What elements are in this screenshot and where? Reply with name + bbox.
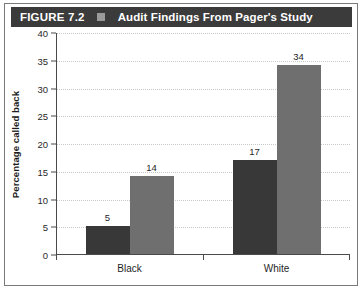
bar <box>233 160 277 254</box>
bars-layer: 5141734 <box>56 33 350 255</box>
y-axis-tick-label: 35 <box>37 55 48 66</box>
figure-container: FIGURE 7.2 Audit Findings From Pager's S… <box>0 0 363 292</box>
bar <box>277 65 321 254</box>
bar-value-label: 5 <box>105 212 110 223</box>
y-axis-tick-label: 25 <box>37 111 48 122</box>
y-axis-tick-label: 30 <box>37 83 48 94</box>
y-axis-title-text: Percentage called back <box>11 90 22 197</box>
bar-value-label: 34 <box>293 51 304 62</box>
figure-title-bar: FIGURE 7.2 Audit Findings From Pager's S… <box>11 7 352 27</box>
x-axis-tick-mark <box>203 255 204 260</box>
bar-chart: Percentage called back 0510152025303540 … <box>11 33 352 280</box>
y-axis-tick-label: 0 <box>43 250 48 261</box>
y-axis-title: Percentage called back <box>7 33 25 255</box>
square-bullet-icon <box>97 13 105 21</box>
y-axis-tick-label: 15 <box>37 166 48 177</box>
bar <box>86 226 130 254</box>
bar <box>130 176 174 254</box>
x-axis-tick-mark <box>349 255 350 260</box>
y-axis-tick-label: 40 <box>37 28 48 39</box>
bar-value-label: 14 <box>146 162 157 173</box>
x-axis: BlackWhite <box>56 255 350 281</box>
y-axis-tick-label: 10 <box>37 194 48 205</box>
plot-area: 5141734 <box>56 33 350 255</box>
y-axis-tick-label: 20 <box>37 139 48 150</box>
figure-number-label: FIGURE 7.2 <box>20 11 85 23</box>
x-axis-category-label: White <box>264 263 290 274</box>
figure-title: Audit Findings From Pager's Study <box>118 11 313 23</box>
x-axis-tick-mark <box>56 255 57 260</box>
bar-value-label: 17 <box>249 146 260 157</box>
x-axis-category-label: Black <box>117 263 141 274</box>
y-axis-tick-labels: 0510152025303540 <box>25 33 51 255</box>
y-axis-tick-label: 5 <box>43 222 48 233</box>
